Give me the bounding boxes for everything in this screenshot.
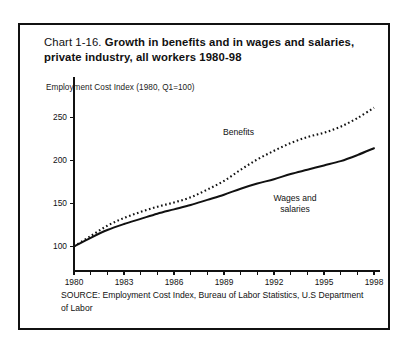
plot-area: Benefits Wages and salaries 100150200250…	[20, 25, 392, 332]
y-tick-label: 150	[41, 198, 67, 208]
source-note: SOURCE: Employment Cost Index, Bureau of…	[61, 289, 371, 314]
x-tick-label: 1986	[159, 277, 189, 287]
series-label-wages: Wages and salaries	[257, 193, 333, 214]
series-label-benefits: Benefits	[223, 127, 254, 138]
series-label-wages-line2: salaries	[280, 204, 310, 214]
x-tick-label: 1998	[359, 277, 389, 287]
x-tick-label: 1980	[59, 277, 89, 287]
y-tick-label: 250	[41, 112, 67, 122]
x-tick-label: 1989	[209, 277, 239, 287]
chart-figure: Chart 1-16. Growth in benefits and in wa…	[18, 23, 390, 330]
axis-group	[70, 77, 380, 275]
x-tick-label: 1983	[109, 277, 139, 287]
x-tick-label: 1992	[259, 277, 289, 287]
series-label-wages-line1: Wages and	[273, 193, 316, 203]
y-tick-label: 200	[41, 155, 67, 165]
y-tick-label: 100	[41, 241, 67, 251]
x-tick-label: 1995	[309, 277, 339, 287]
